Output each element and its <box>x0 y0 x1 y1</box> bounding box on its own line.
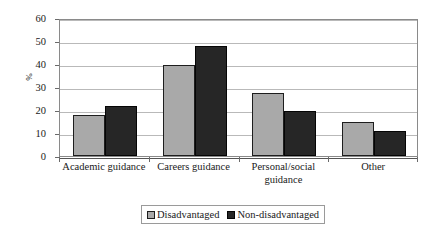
bar-chart: % 6050403020100 Academic guidanceCareers… <box>0 0 444 238</box>
bar-0-0 <box>73 115 105 156</box>
bar-0-2 <box>252 93 284 156</box>
y-axis-tick-mark <box>55 88 59 89</box>
y-axis-tick-mark <box>55 111 59 112</box>
legend-swatch-icon <box>227 211 235 219</box>
x-axis-category-label-line: guidance <box>229 174 339 187</box>
bar-1-3 <box>374 131 406 156</box>
legend-item-0[interactable]: Disadvantaged <box>147 209 219 220</box>
y-axis-tick-mark <box>55 65 59 66</box>
legend-item-1[interactable]: Non-disadvantaged <box>227 209 319 220</box>
gridline <box>60 66 417 67</box>
bar-1-2 <box>284 111 316 156</box>
gridline <box>60 89 417 90</box>
y-axis-tick-mark <box>55 42 59 43</box>
gridline <box>60 43 417 44</box>
bar-1-1 <box>195 46 227 156</box>
y-axis-tick-label: 20 <box>0 106 46 116</box>
y-axis-tick-mark <box>55 19 59 20</box>
y-axis-tick-label: 60 <box>0 14 46 24</box>
bar-0-1 <box>163 65 195 156</box>
x-axis-category-label-line: Other <box>318 161 428 174</box>
y-axis-tick-label: 30 <box>0 83 46 93</box>
bar-1-0 <box>105 106 137 156</box>
legend-swatch-icon <box>147 211 155 219</box>
y-axis-tick-label: 50 <box>0 37 46 47</box>
y-axis-tick-mark <box>55 134 59 135</box>
legend-label: Non-disadvantaged <box>237 209 319 220</box>
gridline <box>60 20 417 21</box>
y-axis-tick-label: 40 <box>0 60 46 70</box>
y-axis-tick-label: 0 <box>0 152 46 162</box>
bar-0-3 <box>342 122 374 156</box>
legend-label: Disadvantaged <box>157 209 219 220</box>
y-axis-tick-label: 10 <box>0 129 46 139</box>
plot-area <box>59 19 418 157</box>
plot-inner <box>60 20 417 156</box>
x-axis-category-label: Other <box>318 161 428 174</box>
chart-legend: DisadvantagedNon-disadvantaged <box>141 205 325 224</box>
